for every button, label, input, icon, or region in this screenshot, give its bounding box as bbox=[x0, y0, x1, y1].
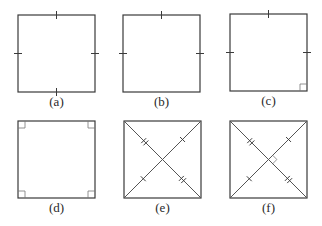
center-right-angle-mark bbox=[273, 155, 277, 163]
panel-label: (a) bbox=[49, 94, 63, 109]
panel-label: (d) bbox=[49, 200, 64, 215]
panel-c: (c) bbox=[226, 10, 311, 108]
right-angle-mark-bottom-left bbox=[18, 191, 25, 198]
panel-d: (d) bbox=[18, 121, 95, 215]
right-angle-mark-top-right bbox=[88, 121, 95, 128]
panel-label: (c) bbox=[261, 93, 275, 108]
square-outline bbox=[18, 15, 95, 92]
panel-a: (a) bbox=[14, 11, 99, 109]
panel-label: (e) bbox=[155, 200, 169, 215]
square-outline bbox=[230, 14, 307, 91]
panel-f: (f) bbox=[230, 121, 307, 215]
panel-label: (f) bbox=[262, 200, 275, 215]
panel-label: (b) bbox=[154, 94, 169, 109]
right-angle-mark-top-left bbox=[18, 121, 25, 128]
right-angle-mark-bottom-right bbox=[300, 84, 307, 91]
figure-canvas: (a)(b)(c)(d)(e)(f) bbox=[0, 0, 322, 226]
square-outline bbox=[18, 121, 95, 198]
panel-e: (e) bbox=[124, 121, 201, 215]
right-angle-mark-bottom-right bbox=[88, 191, 95, 198]
panel-b: (b) bbox=[119, 11, 204, 109]
square-outline bbox=[123, 15, 200, 92]
